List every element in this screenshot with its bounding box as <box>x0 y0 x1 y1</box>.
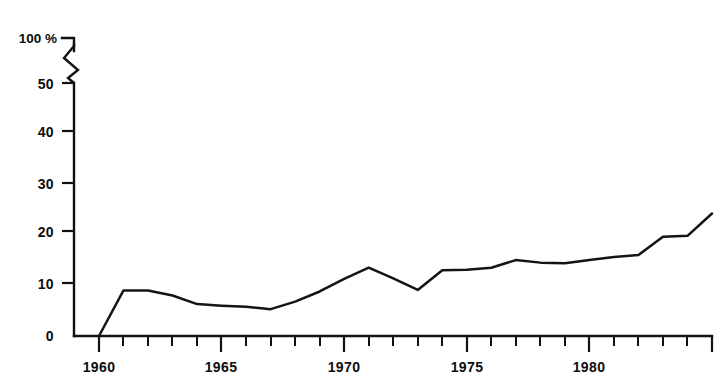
y-tick-label-100: 100 % <box>19 31 57 46</box>
x-tick-label-1980: 1980 <box>573 359 606 375</box>
data-series-line <box>99 214 712 336</box>
y-tick-label-0: 0 <box>46 328 54 344</box>
y-tick-label-30: 30 <box>38 176 54 192</box>
y-tick-label-50: 50 <box>38 76 54 92</box>
y-tick-label-20: 20 <box>38 224 54 240</box>
y-axis-ticks <box>62 83 74 283</box>
x-axis-major-ticks <box>99 336 712 352</box>
x-tick-label-1970: 1970 <box>328 359 361 375</box>
y-tick-label-10: 10 <box>38 276 54 292</box>
x-tick-label-1960: 1960 <box>83 359 116 375</box>
x-tick-label-1965: 1965 <box>205 359 238 375</box>
y-axis-break-zigzag <box>64 46 78 83</box>
y-tick-label-40: 40 <box>38 124 54 140</box>
chart-svg: 100 % 50 40 30 20 10 0 <box>0 0 723 383</box>
line-chart: 100 % 50 40 30 20 10 0 <box>0 0 723 383</box>
x-axis-minor-ticks <box>123 336 687 346</box>
x-tick-label-1975: 1975 <box>451 359 484 375</box>
y-axis-100-cap <box>62 38 74 46</box>
